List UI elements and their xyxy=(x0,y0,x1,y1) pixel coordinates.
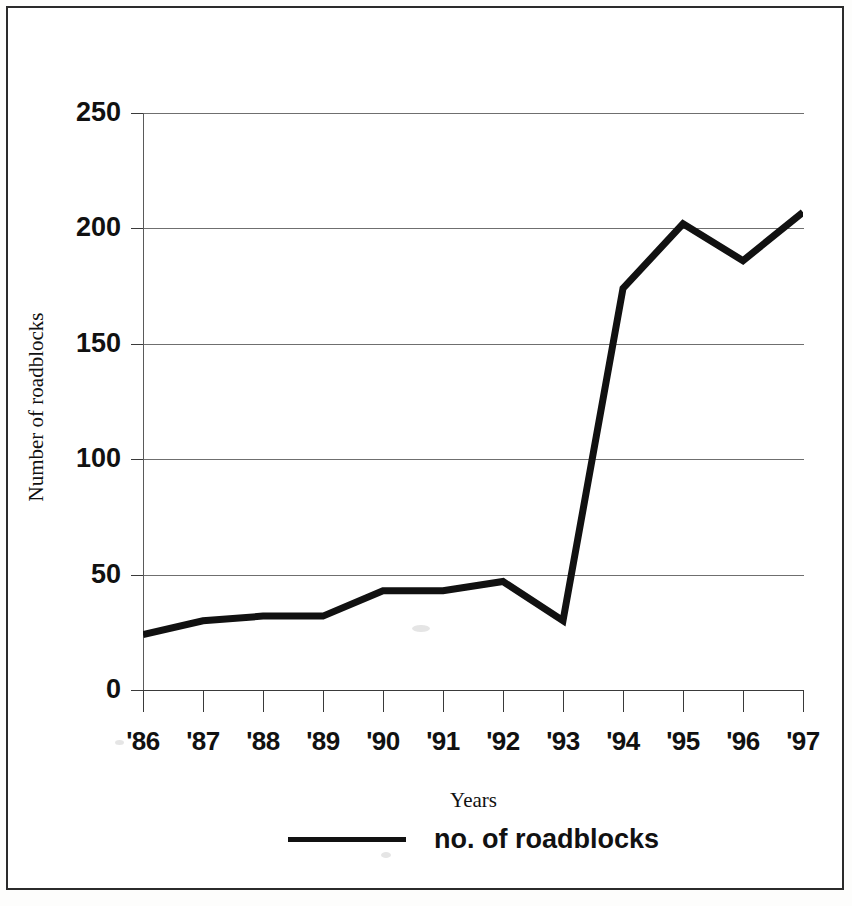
x-tick-mark-y91 xyxy=(443,690,444,712)
x-tick-mark-y86 xyxy=(143,690,144,712)
x-axis-line xyxy=(143,690,804,691)
y-tick-label-150: 150 xyxy=(57,330,121,357)
y-tick-mark-50 xyxy=(131,575,143,576)
line-chart-figure: Number of roadblocks 050100150200250 '86… xyxy=(0,0,852,906)
y-tick-label-250: 250 xyxy=(57,99,121,126)
y-tick-label-wrap: 0 xyxy=(55,676,121,703)
x-tick-label-y93: '93 xyxy=(531,726,595,756)
x-tick-mark-y92 xyxy=(503,690,504,712)
y-tick-mark-0 xyxy=(131,690,143,691)
y-tick-label-200: 200 xyxy=(57,214,121,241)
y-tick-mark-100 xyxy=(131,459,143,460)
y-tick-label-wrap: 250 xyxy=(55,99,121,126)
x-tick-label-y91: '91 xyxy=(411,726,475,756)
y-axis-title: Number of roadblocks xyxy=(24,287,48,527)
x-tick-mark-y96 xyxy=(743,690,744,712)
y-tick-label-wrap: 150 xyxy=(55,330,121,357)
x-tick-label-y95: '95 xyxy=(651,726,715,756)
x-tick-label-y90: '90 xyxy=(351,726,415,756)
x-tick-label-y94: '94 xyxy=(591,726,655,756)
x-tick-mark-y89 xyxy=(323,690,324,712)
scan-speck xyxy=(412,625,430,632)
y-tick-label-wrap: 100 xyxy=(55,445,121,472)
y-tick-label-100: 100 xyxy=(57,445,121,472)
x-axis-title: Years xyxy=(143,788,804,812)
x-tick-label-y89: '89 xyxy=(291,726,355,756)
x-tick-mark-y94 xyxy=(623,690,624,712)
legend-line-swatch xyxy=(288,837,406,842)
x-tick-label-y87: '87 xyxy=(171,726,235,756)
chart-legend: no. of roadblocks xyxy=(143,824,804,854)
scan-speck xyxy=(381,852,391,858)
scanned-page: Number of roadblocks 050100150200250 '86… xyxy=(0,0,852,906)
legend-label-no-of-roadblocks: no. of roadblocks xyxy=(434,824,659,854)
x-tick-mark-y95 xyxy=(683,690,684,712)
x-tick-label-y88: '88 xyxy=(231,726,295,756)
y-tick-mark-150 xyxy=(131,344,143,345)
x-tick-label-y97: '97 xyxy=(771,726,835,756)
y-tick-label-wrap: 50 xyxy=(55,561,121,588)
y-tick-mark-200 xyxy=(131,228,143,229)
x-tick-mark-y97 xyxy=(803,690,804,712)
x-tick-mark-y87 xyxy=(203,690,204,712)
x-tick-label-y96: '96 xyxy=(711,726,775,756)
x-tick-mark-y88 xyxy=(263,690,264,712)
y-tick-label-wrap: 200 xyxy=(55,214,121,241)
y-tick-mark-250 xyxy=(131,113,143,114)
x-tick-label-y92: '92 xyxy=(471,726,535,756)
series-line-no-of-roadblocks xyxy=(143,212,803,634)
y-tick-label-50: 50 xyxy=(57,561,121,588)
y-tick-label-0: 0 xyxy=(57,676,121,703)
x-tick-mark-y93 xyxy=(563,690,564,712)
plot-area xyxy=(143,113,803,690)
x-tick-mark-y90 xyxy=(383,690,384,712)
scan-speck xyxy=(115,740,124,745)
